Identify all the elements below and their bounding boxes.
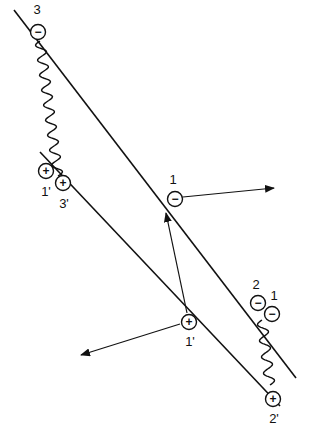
charge-label: 1 xyxy=(270,288,277,303)
charge-label: 2' xyxy=(269,411,279,426)
charge-sign: − xyxy=(268,307,275,321)
charge-label: 1 xyxy=(169,172,176,187)
charge-sign: + xyxy=(269,392,276,406)
charge-sign: − xyxy=(34,25,41,39)
charge-c1p-mid: +1' xyxy=(182,315,197,350)
spring-3-to-3p xyxy=(36,41,63,176)
charge-sign: − xyxy=(254,296,261,310)
arrow-from-1p-up xyxy=(166,213,187,313)
charge-c2p: +2' xyxy=(266,392,281,427)
charges-group: −3+1'+3'−1+1'−2−1+2' xyxy=(31,2,281,426)
charge-label: 1' xyxy=(185,334,195,349)
diagram-canvas: −3+1'+3'−1+1'−2−1+2' xyxy=(0,0,316,430)
charge-c1-mid: −1 xyxy=(168,172,183,207)
arrow-from-1-right xyxy=(183,188,274,197)
charge-sign: − xyxy=(171,192,178,206)
charge-c2: −2 xyxy=(251,277,266,311)
charge-c3: −3 xyxy=(31,2,46,40)
lines-group xyxy=(14,10,296,406)
diagram-svg: −3+1'+3'−1+1'−2−1+2' xyxy=(0,0,316,430)
charge-c1p-left: +1' xyxy=(39,164,54,200)
charge-sign: + xyxy=(42,164,49,178)
charge-label: 3' xyxy=(59,196,69,211)
springs-group xyxy=(36,41,275,385)
charge-sign: + xyxy=(59,176,66,190)
charge-label: 1' xyxy=(41,184,51,199)
charge-sign: + xyxy=(185,315,192,329)
charge-label: 2 xyxy=(252,277,259,292)
arrows-group xyxy=(81,188,274,355)
charge-c3p: +3' xyxy=(56,176,71,212)
lower-line xyxy=(40,152,280,406)
charge-c1-right: −1 xyxy=(265,288,280,322)
arrow-from-1p-left xyxy=(81,324,180,355)
spring-2-to-2p xyxy=(258,320,275,385)
upper-line xyxy=(14,10,296,378)
charge-label: 3 xyxy=(33,2,40,17)
